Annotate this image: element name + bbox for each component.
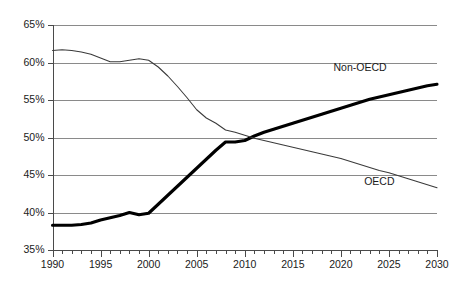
line-chart: 35%40%45%50%55%60%65% 199019952000200520…	[0, 0, 457, 285]
series-line-non-oecd	[53, 84, 438, 225]
x-tick-label-2020: 2020	[329, 258, 353, 270]
x-tick-labels: 199019952000200520102015202020252030	[41, 258, 449, 270]
x-tick-label-2010: 2010	[233, 258, 257, 270]
series-label-oecd: OECD	[364, 175, 395, 187]
x-tick-label-2015: 2015	[281, 258, 305, 270]
chart-container: 35%40%45%50%55%60%65% 199019952000200520…	[0, 0, 457, 285]
y-tick-label-45: 45%	[23, 168, 44, 180]
series-group	[53, 50, 438, 226]
y-tick-labels: 35%40%45%50%55%60%65%	[23, 18, 44, 255]
x-tick-label-2005: 2005	[185, 258, 209, 270]
y-tick-label-65: 65%	[23, 18, 44, 30]
y-tick-label-40: 40%	[23, 206, 44, 218]
series-label-non-oecd: Non-OECD	[334, 61, 388, 73]
x-tick-label-1990: 1990	[41, 258, 65, 270]
x-tick-label-2030: 2030	[425, 258, 449, 270]
x-tick-label-2025: 2025	[377, 258, 401, 270]
y-tick-label-60: 60%	[23, 56, 44, 68]
y-axis	[48, 25, 54, 251]
x-tick-label-2000: 2000	[137, 258, 161, 270]
y-tick-label-55: 55%	[23, 93, 44, 105]
series-annotations: Non-OECDOECD	[334, 61, 395, 187]
y-tick-label-50: 50%	[23, 131, 44, 143]
y-tick-label-35: 35%	[23, 243, 44, 255]
x-axis	[53, 250, 438, 257]
x-tick-label-1995: 1995	[89, 258, 113, 270]
